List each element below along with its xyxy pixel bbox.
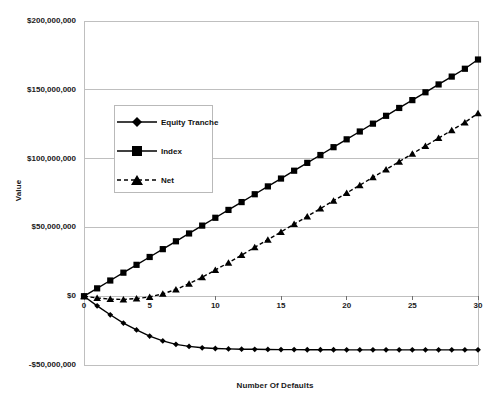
chart-legend: Equity Tranche Index Net bbox=[114, 105, 213, 193]
legend-label-net: Net bbox=[161, 176, 174, 185]
y-axis-tick-label: $0 bbox=[2, 291, 76, 300]
x-axis-tick-label: 25 bbox=[400, 301, 424, 310]
chart-plot-area bbox=[0, 0, 490, 403]
y-axis-title: Value bbox=[14, 161, 23, 221]
x-axis-tick-label: 5 bbox=[138, 301, 162, 310]
y-axis-tick-label: -$50,000,000 bbox=[2, 360, 76, 369]
y-axis-tick-label: $150,000,000 bbox=[2, 85, 76, 94]
y-axis-tick-label: $100,000,000 bbox=[2, 154, 76, 163]
legend-item-net: Net bbox=[115, 170, 214, 190]
legend-label-equity-tranche: Equity Tranche bbox=[161, 118, 218, 127]
x-axis-tick-label: 20 bbox=[335, 301, 359, 310]
y-axis-tick-label: $200,000,000 bbox=[2, 16, 76, 25]
legend-item-equity-tranche: Equity Tranche bbox=[115, 112, 214, 132]
legend-item-index: Index bbox=[115, 141, 214, 161]
legend-marker-diamond-icon bbox=[115, 115, 159, 129]
x-axis-tick-label: 30 bbox=[466, 301, 490, 310]
y-axis-tick-label: $50,000,000 bbox=[2, 222, 76, 231]
x-axis-tick-label: 10 bbox=[203, 301, 227, 310]
x-axis-title: Number Of Defaults bbox=[0, 381, 490, 390]
chart-container: Value Number Of Defaults $200,000,000$15… bbox=[0, 0, 490, 403]
x-axis-tick-label: 0 bbox=[72, 301, 96, 310]
legend-marker-triangle-icon bbox=[115, 173, 159, 187]
x-axis-tick-label: 15 bbox=[269, 301, 293, 310]
legend-marker-square-icon bbox=[115, 144, 159, 158]
legend-label-index: Index bbox=[161, 147, 182, 156]
